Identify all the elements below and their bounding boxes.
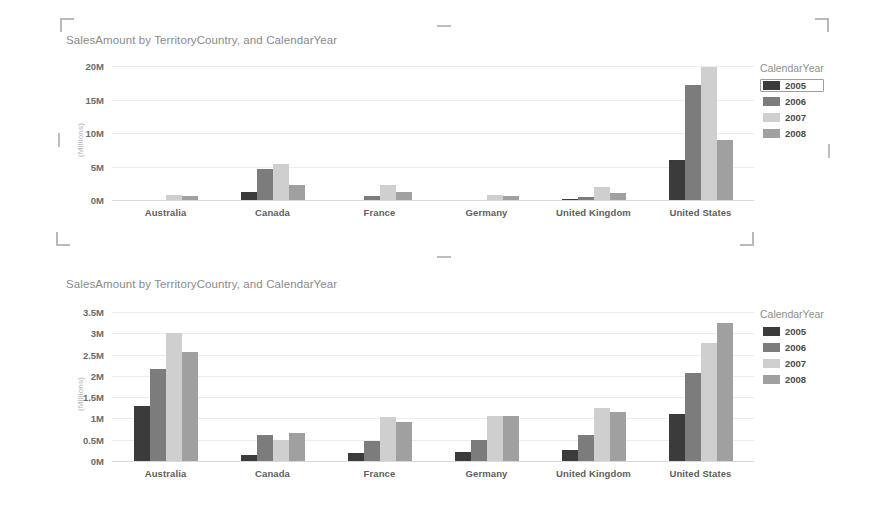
bar[interactable] [685, 373, 701, 461]
legend-item-2007[interactable]: 2007 [760, 357, 824, 370]
bar[interactable] [150, 369, 166, 461]
bar[interactable] [257, 169, 273, 200]
axis-baseline [112, 461, 754, 462]
bar[interactable] [364, 196, 380, 200]
selection-handle-top-center[interactable] [437, 25, 451, 27]
bar-group[interactable] [241, 66, 305, 200]
legend-item-2006[interactable]: 2006 [760, 95, 824, 108]
bar-group[interactable] [134, 312, 198, 461]
bar[interactable] [396, 422, 412, 461]
bar[interactable] [594, 408, 610, 461]
legend-items[interactable]: 2005200620072008 [760, 325, 824, 386]
selection-handle-top-left[interactable] [60, 18, 74, 32]
x-axis-category-label: France [326, 468, 433, 479]
bar[interactable] [134, 406, 150, 461]
gridline [112, 100, 754, 101]
bar-group[interactable] [562, 312, 626, 461]
legend-top[interactable]: CalendarYear 2005200620072008 [760, 62, 824, 143]
bar[interactable] [289, 433, 305, 461]
legend-title: CalendarYear [760, 62, 824, 74]
bar[interactable] [562, 450, 578, 461]
bar[interactable] [182, 196, 198, 200]
bar[interactable] [182, 352, 198, 461]
bar[interactable] [380, 417, 396, 461]
y-axis-tick-label: 5M [60, 161, 104, 172]
bar-group[interactable] [348, 66, 412, 200]
bar[interactable] [289, 185, 305, 200]
chart-panel-bottom[interactable]: SalesAmount by TerritoryCountry, and Cal… [60, 278, 820, 513]
legend-item-label: 2007 [785, 112, 806, 123]
bar[interactable] [471, 440, 487, 461]
bar[interactable] [241, 455, 257, 461]
legend-item-2008[interactable]: 2008 [760, 127, 824, 140]
legend-bottom[interactable]: CalendarYear 2005200620072008 [760, 308, 824, 389]
legend-items[interactable]: 2005200620072008 [760, 79, 824, 140]
bar[interactable] [685, 85, 701, 200]
bar[interactable] [380, 185, 396, 200]
x-axis-category-label: Canada [219, 468, 326, 479]
bar[interactable] [396, 192, 412, 200]
bar-group[interactable] [669, 312, 733, 461]
chart-panel-top[interactable]: SalesAmount by TerritoryCountry, and Cal… [60, 34, 820, 249]
bar[interactable] [594, 187, 610, 200]
bar-group[interactable] [562, 66, 626, 200]
legend-item-label: 2008 [785, 128, 806, 139]
bar-group[interactable] [241, 312, 305, 461]
y-axis-tick-label: 2M [60, 370, 104, 381]
bar[interactable] [610, 412, 626, 461]
gridline [112, 133, 754, 134]
bar[interactable] [717, 140, 733, 200]
bar[interactable] [669, 160, 685, 200]
bar[interactable] [610, 193, 626, 200]
bar-group[interactable] [134, 66, 198, 200]
bar[interactable] [701, 67, 717, 200]
y-axis-tick-label: 3M [60, 328, 104, 339]
bar-group[interactable] [669, 66, 733, 200]
legend-item-2005[interactable]: 2005 [760, 325, 824, 338]
bar[interactable] [669, 414, 685, 461]
bar[interactable] [241, 192, 257, 200]
bar-group[interactable] [455, 312, 519, 461]
bar[interactable] [562, 199, 578, 200]
gridline [112, 355, 754, 356]
bar[interactable] [701, 343, 717, 461]
bar[interactable] [503, 196, 519, 200]
gridline [112, 312, 754, 313]
y-axis-tick-label: 0M [60, 195, 104, 206]
bar-group[interactable] [455, 66, 519, 200]
legend-swatch-icon [763, 343, 780, 352]
bar[interactable] [273, 164, 289, 200]
selection-handle-top-right[interactable] [815, 18, 829, 32]
bar[interactable] [166, 333, 182, 461]
bar[interactable] [717, 323, 733, 461]
x-axis-category-label: United States [647, 468, 754, 479]
legend-swatch-icon [763, 81, 780, 90]
bar[interactable] [273, 440, 289, 461]
legend-item-2006[interactable]: 2006 [760, 341, 824, 354]
legend-swatch-icon [763, 375, 780, 384]
selection-handle-bottom-center[interactable] [437, 256, 451, 258]
selection-handle-right-middle[interactable] [828, 144, 830, 158]
bar[interactable] [578, 197, 594, 200]
bar[interactable] [364, 441, 380, 461]
bar[interactable] [578, 435, 594, 461]
bar[interactable] [166, 195, 182, 200]
legend-item-2007[interactable]: 2007 [760, 111, 824, 124]
y-axis-tick-label: 10M [60, 128, 104, 139]
y-axis-tick-label: 2.5M [60, 349, 104, 360]
legend-item-2005[interactable]: 2005 [760, 79, 824, 92]
bar[interactable] [487, 416, 503, 461]
report-canvas: SalesAmount by TerritoryCountry, and Cal… [0, 0, 874, 530]
bar-group[interactable] [348, 312, 412, 461]
bar[interactable] [348, 453, 364, 462]
bar[interactable] [455, 452, 471, 461]
legend-item-2008[interactable]: 2008 [760, 373, 824, 386]
bar[interactable] [503, 416, 519, 461]
bar[interactable] [487, 195, 503, 200]
x-axis-category-label: United Kingdom [540, 468, 647, 479]
gridline [112, 167, 754, 168]
legend-swatch-icon [763, 129, 780, 138]
bar[interactable] [257, 435, 273, 461]
gridline [112, 333, 754, 334]
x-axis-category-label: United Kingdom [540, 207, 647, 218]
